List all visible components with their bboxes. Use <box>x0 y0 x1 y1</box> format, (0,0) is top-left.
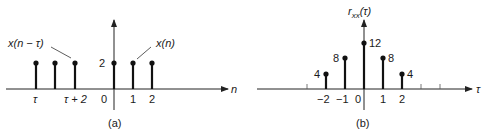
value-label-0: 12 <box>369 37 381 49</box>
autocorrelation-stems <box>323 40 404 89</box>
panel-b: 4 8 12 8 4 −2 −1 0 1 2 rxx(τ) τ (b) <box>257 5 481 129</box>
tick-label-1: 1 <box>380 93 386 105</box>
n-axis-label: n <box>231 83 237 95</box>
tick-label-0: 0 <box>101 93 107 105</box>
panel-b-caption: (b) <box>356 117 369 129</box>
tick-label-neg1: −1 <box>336 93 349 105</box>
callout-shifted: x(n − τ) <box>7 37 44 49</box>
callout-leader-original <box>137 47 151 59</box>
height-label: 2 <box>99 57 105 69</box>
callout-leader-shifted <box>51 47 71 58</box>
shifted-sequence <box>33 60 77 89</box>
value-label-neg1: 8 <box>333 52 339 64</box>
panel-a: x(n − τ) x(n) 2 τ τ + 2 0 1 2 n (a) <box>6 20 237 129</box>
tick-label-0: 0 <box>355 93 361 105</box>
original-sequence <box>111 60 154 89</box>
tick-label-2: 2 <box>149 93 155 105</box>
value-label-neg2: 4 <box>314 68 320 80</box>
tau-axis-label: τ <box>476 83 481 95</box>
panel-a-caption: (a) <box>108 117 121 129</box>
tick-label-2: 2 <box>399 93 405 105</box>
tick-label-tau-plus-2: τ + 2 <box>64 93 87 105</box>
figure: x(n − τ) x(n) 2 τ τ + 2 0 1 2 n (a) 4 8 … <box>0 0 492 139</box>
value-label-2: 4 <box>407 68 413 80</box>
callout-original: x(n) <box>155 37 175 49</box>
y-title-argument: (τ) <box>360 5 372 17</box>
y-axis-title: rxx(τ) <box>348 5 371 20</box>
tick-label-tau: τ <box>33 93 38 105</box>
tick-label-neg2: −2 <box>317 93 330 105</box>
value-label-1: 8 <box>388 52 394 64</box>
tick-label-1: 1 <box>130 93 136 105</box>
